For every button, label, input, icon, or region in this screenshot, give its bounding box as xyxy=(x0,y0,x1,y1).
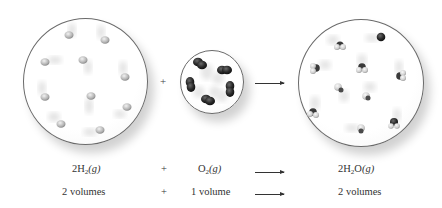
volume-plus: + xyxy=(161,186,167,197)
h2-state: (g) xyxy=(88,163,100,174)
h2o-coef: 2H xyxy=(338,163,351,174)
volume-reactant-o2: 1 volume xyxy=(191,186,230,197)
equation-product-h2o: 2H2O(g) xyxy=(338,163,374,176)
h2-coef: 2H xyxy=(72,163,85,174)
h2o-molecules xyxy=(0,0,442,208)
h2o-molecule-group xyxy=(307,33,406,134)
volume-product-h2o: 2 volumes xyxy=(338,186,381,197)
h2o-oxygen: O xyxy=(354,163,362,174)
equation-reactant-h2: 2H2(g) xyxy=(72,163,101,176)
volume-arrow xyxy=(255,194,284,195)
h2o-state: (g) xyxy=(362,163,374,174)
o2-coef: O xyxy=(198,163,206,174)
o2-state: (g) xyxy=(209,163,221,174)
equation-arrow xyxy=(255,172,284,173)
volume-reactant-h2: 2 volumes xyxy=(62,186,105,197)
equation-reactant-o2: O2(g) xyxy=(198,163,221,176)
equation-plus: + xyxy=(161,163,167,174)
